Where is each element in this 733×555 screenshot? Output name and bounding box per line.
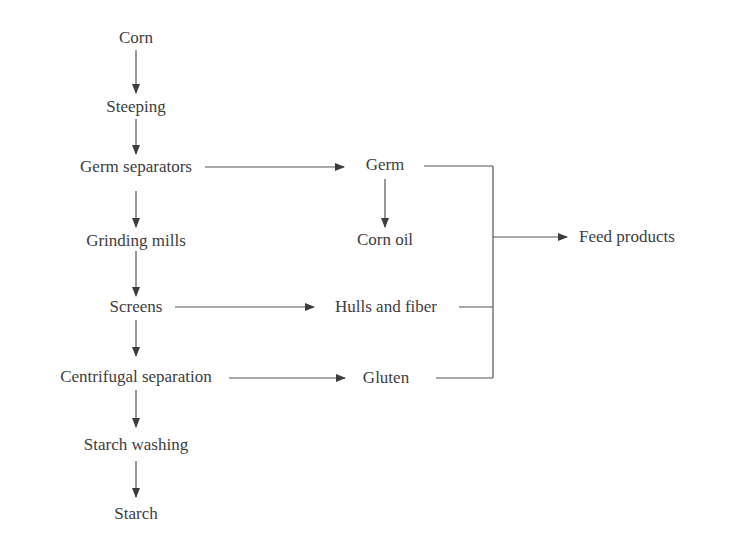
node-grinding-mills: Grinding mills (86, 231, 186, 251)
node-screens: Screens (110, 297, 163, 317)
flow-connectors (0, 0, 733, 555)
node-corn: Corn (119, 28, 153, 48)
node-germ: Germ (366, 155, 405, 175)
node-starch-washing: Starch washing (84, 435, 188, 455)
node-corn-oil: Corn oil (357, 230, 413, 250)
node-gluten: Gluten (363, 368, 409, 388)
node-hulls-and-fiber: Hulls and fiber (335, 297, 437, 317)
node-centrifugal-separation: Centrifugal separation (60, 367, 212, 387)
node-starch: Starch (114, 504, 157, 524)
node-feed-products: Feed products (579, 227, 675, 247)
node-germ-separators: Germ separators (80, 157, 192, 177)
node-steeping: Steeping (106, 97, 166, 117)
